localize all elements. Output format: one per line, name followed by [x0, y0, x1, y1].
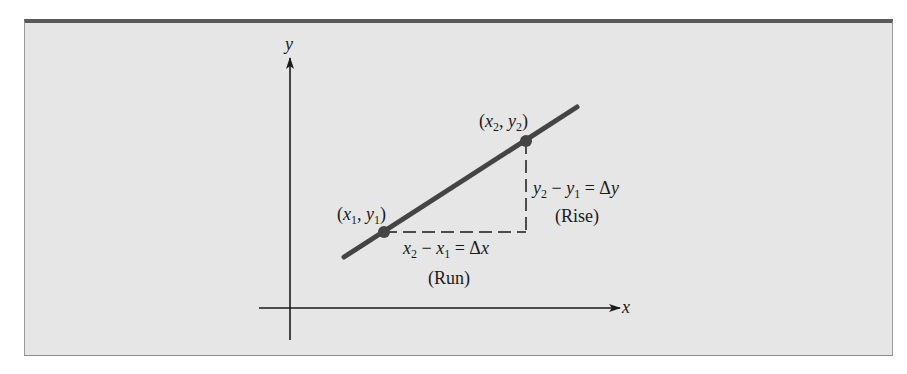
run-caption: (Run)	[428, 268, 470, 289]
run-equation: x2 − x1 = Δx	[402, 238, 489, 261]
rise-equation: y2 − y1 = Δy	[531, 178, 619, 201]
slope-diagram: y x (x1, y1) (x2, y2) x2 − x1 = Δx (Run)…	[0, 0, 907, 374]
point-2-marker	[520, 135, 532, 147]
rise-caption: (Rise)	[555, 206, 599, 227]
point-1-marker	[378, 226, 390, 238]
point-2-label: (x2, y2)	[479, 111, 528, 134]
x-axis-label: x	[621, 297, 630, 317]
point-1-label: (x1, y1)	[337, 204, 386, 227]
y-axis-label: y	[283, 34, 293, 54]
